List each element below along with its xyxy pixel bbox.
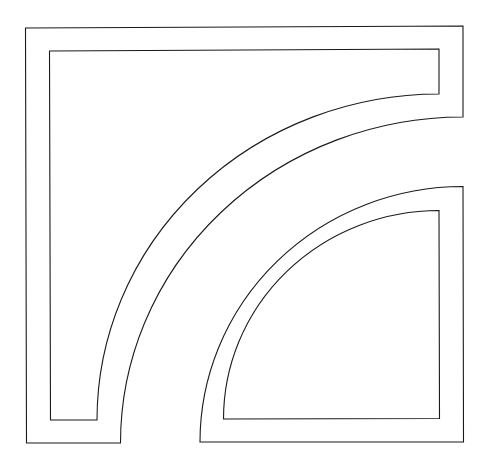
right-quarter-band-outer — [200, 187, 464, 443]
diagram-canvas — [0, 0, 492, 466]
diagram-svg — [0, 0, 492, 466]
left-curved-band-outer — [26, 26, 464, 443]
right-quarter-band-inner — [224, 211, 440, 420]
left-curved-band-inner — [50, 49, 440, 420]
